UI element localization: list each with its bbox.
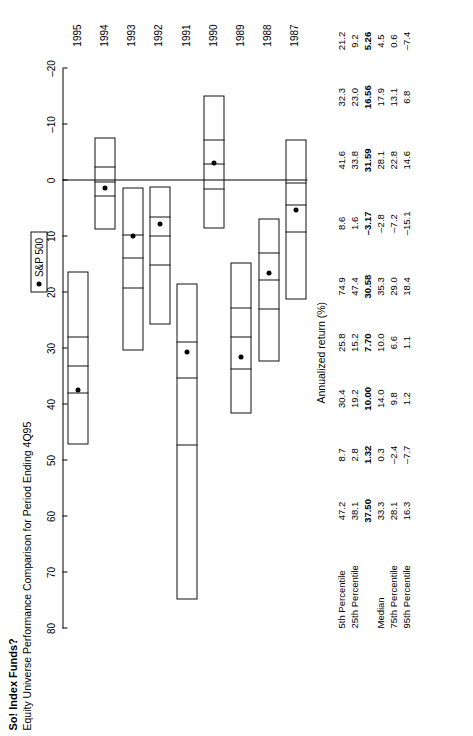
table-cell: –7.4: [399, 16, 412, 65]
sp500-value-cell: 16.56: [360, 65, 373, 128]
axis-tick-label: 70: [45, 557, 56, 587]
sp500-data-point: [211, 160, 216, 165]
axis-tick: [62, 627, 67, 628]
table-cell: 9.8: [386, 367, 399, 430]
sp500-value-cell: 1.32: [360, 430, 373, 479]
table-cell: –15.1: [399, 191, 412, 254]
table-cell: 33.8: [347, 128, 360, 191]
sp500-value-cell: 5.26: [360, 16, 373, 65]
axis-tick-label: 0: [45, 165, 56, 195]
sp500-row: 37.501.3210.007.7030.58–3.1731.5916.565.…: [360, 16, 373, 628]
table-cell: 14.0: [373, 367, 386, 430]
rotated-figure-wrapper: So! Index Funds? Equity Universe Perform…: [0, 0, 473, 736]
sp500-value-cell: 7.70: [360, 318, 373, 367]
boxplot-quartile-line: [94, 181, 115, 182]
boxplot-quartile-line: [149, 216, 170, 217]
table-cell: 47.2: [334, 479, 347, 542]
table-cell: 18.4: [399, 254, 412, 317]
table-cell: 35.3: [373, 254, 386, 317]
table-cell: 4.5: [373, 16, 386, 65]
table-cell: 17.9: [373, 65, 386, 128]
axis-tick-label: 80: [45, 613, 56, 643]
table-body: 5th Percentile47.28.730.425.874.98.641.6…: [334, 16, 412, 628]
year-label: 1995: [71, 10, 82, 60]
table-cell: 29.0: [386, 254, 399, 317]
axis-tick: [62, 403, 67, 404]
table-cell: 33.3: [373, 479, 386, 542]
boxplot-quartile-line: [149, 264, 170, 265]
table-row-label: Median: [373, 542, 386, 628]
table-cell: 14.6: [399, 128, 412, 191]
table-cell: 1.2: [399, 367, 412, 430]
sp500-value-cell: –3.17: [360, 191, 373, 254]
axis-tick: [62, 123, 67, 124]
table-cell: –7.2: [386, 191, 399, 254]
table-cell: 25.8: [334, 318, 347, 367]
year-label: 1993: [125, 10, 136, 60]
sp500-value-cell: 30.58: [360, 254, 373, 317]
table-cell: 19.2: [347, 367, 360, 430]
axis-tick-label: 50: [45, 445, 56, 475]
sp500-value-cell: 10.00: [360, 367, 373, 430]
sp500-data-point: [102, 185, 107, 190]
chart-figure: So! Index Funds? Equity Universe Perform…: [0, 0, 473, 736]
year-label: 1987: [288, 10, 299, 60]
boxplot-box: [67, 271, 88, 444]
axis-tick-label: 30: [45, 333, 56, 363]
boxplot-quartile-line: [285, 182, 306, 183]
sp500-data-point: [157, 221, 162, 226]
table-cell: 1.1: [399, 318, 412, 367]
sp500-value-cell: 31.59: [360, 128, 373, 191]
table-cell: 9.2: [347, 16, 360, 65]
boxplot-quartile-line: [230, 307, 251, 308]
table-cell: 47.4: [347, 254, 360, 317]
table-row: 5th Percentile47.28.730.425.874.98.641.6…: [334, 16, 347, 628]
table-cell: 22.8: [386, 128, 399, 191]
boxplot-box: [122, 187, 143, 351]
table-cell: 8.6: [334, 191, 347, 254]
data-table: 5th Percentile47.28.730.425.874.98.641.6…: [332, 16, 412, 628]
axis-tick: [62, 459, 67, 460]
boxplot-quartile-line: [122, 287, 143, 288]
table-cell: 28.1: [386, 479, 399, 542]
boxplot-box: [258, 218, 279, 361]
sp500-data-point: [238, 354, 243, 359]
page-title: So! Index Funds?: [6, 638, 18, 730]
sp500-data-point: [266, 270, 271, 275]
year-label: 1990: [207, 10, 218, 60]
boxplot-plot-area: 80706050403020100–10–2019951994199319921…: [62, 68, 307, 628]
boxplot-quartile-line: [67, 336, 88, 337]
axis-tick-label: 60: [45, 501, 56, 531]
table-cell: 6.6: [386, 318, 399, 367]
boxplot-box: [149, 186, 170, 324]
boxplot-quartile-line: [258, 252, 279, 253]
axis-tick-label: 20: [45, 277, 56, 307]
table-cell: –2.8: [373, 191, 386, 254]
table-cell: 2.8: [347, 430, 360, 479]
boxplot-quartile-line: [176, 341, 197, 342]
axis-tick: [62, 291, 67, 292]
boxplot-quartile-line: [285, 231, 306, 232]
boxplot-quartile-line: [258, 279, 279, 280]
year-label: 1988: [261, 10, 272, 60]
table-cell: 13.1: [386, 65, 399, 128]
table-cell: 23.0: [347, 65, 360, 128]
axis-tick: [62, 515, 67, 516]
table-cell: 21.2: [334, 16, 347, 65]
table-row: 75th Percentile28.1–2.49.86.629.0–7.222.…: [386, 16, 399, 628]
year-label: 1991: [180, 10, 191, 60]
table-row: Median33.30.314.010.035.3–2.828.117.94.5: [373, 16, 386, 628]
axis-tick-label: 40: [45, 389, 56, 419]
boxplot-box: [94, 137, 115, 229]
table-cell: 6.8: [399, 65, 412, 128]
table-row: 25th Percentile38.12.819.215.247.41.633.…: [347, 16, 360, 628]
table-cell: 15.2: [347, 318, 360, 367]
axis-tick-label: –10: [45, 109, 56, 139]
axis-tick: [62, 235, 67, 236]
table-cell: 16.3: [399, 479, 412, 542]
table-cell: –7.7: [399, 430, 412, 479]
table-cell: 0.3: [373, 430, 386, 479]
boxplot-box: [285, 139, 306, 299]
boxplot-quartile-line: [230, 368, 251, 369]
table-cell: 28.1: [373, 128, 386, 191]
